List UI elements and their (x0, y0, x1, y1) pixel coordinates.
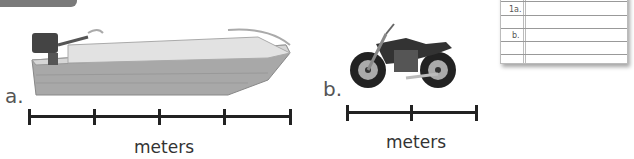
notepad-label-b: b. (512, 31, 520, 40)
ruler-tick (223, 109, 226, 125)
unit-label-a: meters (134, 139, 194, 156)
ruler-tick (289, 109, 292, 125)
answer-notepad: 1a. b. (500, 0, 628, 64)
ruler-tick (158, 109, 161, 125)
motorcycle-image (346, 14, 458, 94)
notepad-rule (501, 28, 627, 29)
notepad-rule (501, 54, 627, 55)
item-a-label: a. (5, 86, 24, 106)
ruler-tick (475, 105, 478, 121)
section-header-tab (0, 0, 77, 7)
answer-line-b[interactable] (501, 41, 627, 42)
item-b-label: b. (323, 79, 342, 99)
unit-label-b: meters (386, 134, 446, 151)
ruler-a (28, 109, 292, 125)
ruler-tick (346, 105, 349, 121)
answer-line-1a[interactable] (501, 15, 627, 16)
ruler-tick (410, 105, 413, 121)
ruler-b (346, 105, 478, 121)
ruler-tick (28, 109, 31, 125)
ruler-tick (93, 109, 96, 125)
boat-image (28, 25, 293, 97)
notepad-rule (501, 1, 627, 2)
notepad-label-1a: 1a. (509, 5, 522, 14)
